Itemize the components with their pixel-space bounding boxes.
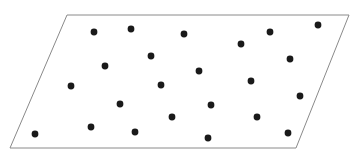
scatter-dot <box>238 41 245 48</box>
parallelogram-outline <box>10 15 349 148</box>
scatter-dot <box>297 93 304 100</box>
scatter-dot <box>248 78 255 85</box>
scatter-dot <box>68 83 75 90</box>
parallelogram-scatter-figure <box>0 0 358 155</box>
scatter-dot <box>169 114 176 121</box>
scatter-dot <box>181 31 188 38</box>
scatter-dot <box>88 124 95 131</box>
scatter-dot <box>117 101 124 108</box>
scatter-dot <box>102 63 109 70</box>
scatter-dot <box>254 114 261 121</box>
scatter-dot <box>205 135 212 142</box>
scatter-dot <box>158 82 165 89</box>
scatter-dot <box>32 131 39 138</box>
scatter-dot <box>132 129 139 136</box>
scatter-dot <box>196 68 203 75</box>
scatter-dot <box>128 26 135 33</box>
figure-canvas <box>0 0 358 155</box>
scatter-dot <box>148 53 155 60</box>
scatter-dot <box>267 29 274 36</box>
scatter-dot <box>315 22 322 29</box>
scatter-dot <box>285 130 292 137</box>
scatter-dot <box>287 56 294 63</box>
scatter-dot <box>91 29 98 36</box>
scatter-dot <box>208 102 215 109</box>
